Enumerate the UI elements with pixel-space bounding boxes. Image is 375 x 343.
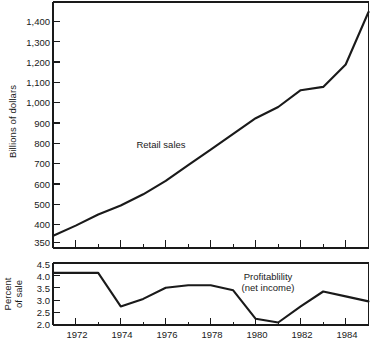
x-tick-label: 1982 [280,330,324,340]
top-y-tick-label: 1,300 [4,38,50,48]
top-y-tick-label: 900 [4,119,50,129]
top-y-tick-label: 1,000 [4,98,50,108]
x-tick-label: 1976 [145,330,189,340]
bottom-panel-plot [52,261,371,331]
x-tick-label: 1980 [235,330,279,340]
top-y-tick-label: 500 [4,200,50,210]
bottom-y-tick-label: 4.0 [14,272,50,282]
top-y-tick-label: 800 [4,139,50,149]
x-tick-label: 1978 [190,330,234,340]
top-y-tick-label: 600 [4,180,50,190]
profitability-annotation: Profitablility (net income) [226,271,310,293]
top-panel-plot [52,0,371,256]
top-y-tick-label: 400 [4,220,50,230]
bottom-y-tick-label: 3.5 [14,284,50,294]
bottom-panel-y-axis-title-line1: Percent [2,278,13,311]
bottom-y-tick-label: 4.5 [14,260,50,270]
x-tick-label: 1984 [325,330,369,340]
top-panel-y-ticks [53,22,60,243]
bottom-y-tick-label: 2.5 [14,308,50,318]
retail-sales-annotation: Retail sales [119,139,203,150]
bottom-y-tick-label: 2.0 [14,320,50,330]
profitability-line [53,273,368,323]
top-y-tick-label: 350 [4,238,50,248]
retail-sales-line [53,12,368,236]
bottom-y-tick-label: 3.0 [14,296,50,306]
bottom-panel-x-ticks [76,318,346,325]
top-y-tick-label: 1,200 [4,58,50,68]
top-panel-axis-frame [53,2,368,248]
top-y-tick-label: 700 [4,159,50,169]
top-y-tick-label: 1,100 [4,78,50,88]
profitability-annotation-line1: Profitablility [244,271,293,282]
profitability-annotation-line2: (net income) [242,282,295,293]
chart-figure: Billions of dollars 1,400 1,300 1,200 1,… [0,0,375,343]
top-panel-x-ticks [76,240,346,248]
x-tick-label: 1972 [55,330,99,340]
x-tick-label: 1974 [100,330,144,340]
top-y-tick-label: 1,400 [4,17,50,27]
